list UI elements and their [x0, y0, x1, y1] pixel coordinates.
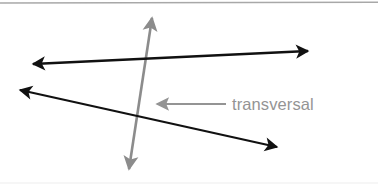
- diagram-canvas: transversal: [0, 0, 378, 189]
- parallel-line-upper: [33, 51, 308, 64]
- transversal-diagram: transversal: [0, 0, 378, 189]
- transversal-line: [129, 18, 152, 169]
- top-border-rule: [0, 2, 378, 3]
- transversal-label: transversal: [232, 95, 314, 113]
